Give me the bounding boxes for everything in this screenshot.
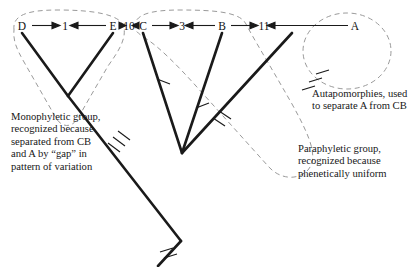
distance-label-11: 11 (258, 20, 269, 32)
monophyletic-group-DE-outline (14, 10, 124, 126)
autapomorphies-caption: Autapomorphies, used to separate A from … (312, 88, 412, 113)
tip-label-E: E (109, 20, 116, 32)
distance-label-3: 3 (179, 20, 185, 32)
tip-label-D: D (18, 20, 26, 32)
paraphyletic-group-caption: Paraphyletic group, recognized because p… (298, 143, 404, 180)
branch-D (22, 33, 68, 96)
tip-label-B: B (218, 20, 226, 32)
autapomorphy-circle-A-outline (303, 13, 391, 89)
stem-CB (182, 33, 292, 153)
tip-label-A: A (351, 20, 360, 32)
branch-E (68, 33, 113, 96)
tip-label-C: C (139, 20, 147, 32)
distance-label-10: 10 (123, 20, 135, 32)
branch-C (143, 33, 182, 153)
distance-label-1: 1 (62, 20, 68, 32)
branch-hatch-marks (108, 70, 329, 258)
distance-axis (32, 22, 348, 29)
branch-B (182, 33, 222, 153)
root-stem (158, 241, 181, 266)
monophyletic-group-caption: Monophyletic group, recognized because s… (11, 111, 107, 173)
